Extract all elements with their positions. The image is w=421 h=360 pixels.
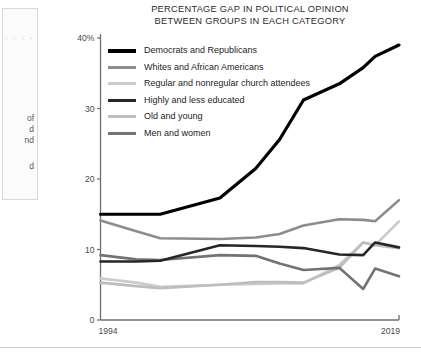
legend-swatch bbox=[108, 132, 136, 135]
legend-swatch bbox=[108, 82, 136, 85]
x-tick-label-end: 2019 bbox=[381, 326, 400, 336]
series-line bbox=[101, 200, 400, 239]
legend-label: Men and women bbox=[144, 128, 211, 140]
legend-swatch bbox=[108, 66, 136, 69]
legend-item[interactable]: Highly and less educated bbox=[108, 95, 318, 107]
chart-container: PERCENTAGE GAP IN POLITICAL OPINION BETW… bbox=[0, 0, 421, 360]
legend-label: Regular and nonregular church attendees bbox=[144, 78, 310, 90]
y-tick-label: 30 bbox=[85, 104, 95, 114]
footer-divider bbox=[0, 347, 421, 348]
chart-legend: Democrats and RepublicansWhites and Afri… bbox=[108, 45, 318, 144]
legend-item[interactable]: Democrats and Republicans bbox=[108, 45, 318, 57]
x-tick-label-start: 1994 bbox=[99, 326, 118, 336]
y-tick-label: 10 bbox=[85, 245, 95, 255]
legend-item[interactable]: Regular and nonregular church attendees bbox=[108, 78, 318, 90]
legend-item[interactable]: Men and women bbox=[108, 128, 318, 140]
screenshot-root: · · · · ofdndd PERCENTAGE GAP IN POLITIC… bbox=[0, 0, 421, 360]
legend-label: Highly and less educated bbox=[144, 95, 245, 107]
y-tick-label: 0 bbox=[90, 315, 95, 325]
legend-swatch bbox=[108, 99, 136, 102]
legend-swatch bbox=[108, 115, 136, 118]
y-tick-label: 20 bbox=[85, 174, 95, 184]
legend-label: Old and young bbox=[144, 111, 203, 123]
y-tick-label: 40% bbox=[77, 33, 95, 43]
legend-label: Whites and African Americans bbox=[144, 62, 264, 74]
legend-item[interactable]: Whites and African Americans bbox=[108, 62, 318, 74]
legend-swatch bbox=[108, 49, 136, 53]
legend-item[interactable]: Old and young bbox=[108, 111, 318, 123]
legend-label: Democrats and Republicans bbox=[144, 45, 257, 57]
